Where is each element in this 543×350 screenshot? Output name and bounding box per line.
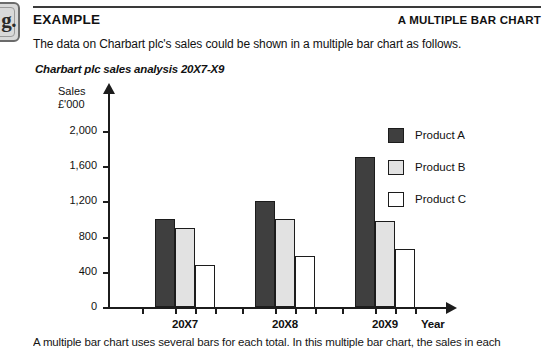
x-tick-mark — [215, 307, 217, 314]
bar-20x8-product-a — [255, 201, 275, 307]
publisher-logo-tab: g. — [0, 2, 20, 42]
x-axis-line — [108, 307, 448, 309]
multiple-bar-chart: Sales £'000 04008001,2001,6002,000 20X72… — [33, 80, 543, 335]
x-tick-mark — [375, 307, 377, 314]
footer-paragraph: A multiple bar chart uses several bars f… — [33, 336, 543, 348]
logo-text: g. — [1, 8, 16, 33]
legend-swatch — [388, 160, 404, 175]
legend-label: Product C — [415, 193, 466, 205]
y-tick-label: 800 — [51, 230, 97, 242]
x-tick-mark — [195, 307, 197, 314]
section-header: EXAMPLE A MULTIPLE BAR CHART — [33, 12, 541, 32]
legend-swatch — [388, 128, 404, 143]
y-axis-title-line1: Sales — [58, 85, 86, 98]
bar-20x8-product-b — [275, 219, 295, 307]
bar-20x9-product-a — [355, 157, 375, 307]
chart-type-heading: A MULTIPLE BAR CHART — [398, 14, 541, 26]
x-tick-mark — [395, 307, 397, 314]
page-content: EXAMPLE A MULTIPLE BAR CHART The data on… — [33, 0, 543, 350]
x-tick-mark — [242, 307, 244, 314]
header-divider — [33, 6, 541, 8]
x-axis-label-20x8: 20X8 — [255, 318, 315, 330]
bar-20x8-product-c — [295, 256, 315, 307]
y-tick-label: 2,000 — [51, 124, 97, 136]
y-axis-title-line2: £'000 — [58, 98, 86, 111]
y-tick-mark — [103, 237, 110, 239]
y-tick-label: 1,600 — [51, 159, 97, 171]
bar-20x7-product-b — [175, 228, 195, 307]
y-tick-label: 1,200 — [51, 194, 97, 206]
bar-20x7-product-c — [195, 265, 215, 307]
y-tick-mark — [103, 131, 110, 133]
bar-20x9-product-c — [395, 249, 415, 307]
y-tick-label: 0 — [51, 300, 97, 312]
y-tick-mark — [103, 166, 110, 168]
legend-swatch — [388, 192, 404, 207]
example-heading: EXAMPLE — [33, 12, 100, 27]
x-axis-label-20x9: 20X9 — [355, 318, 415, 330]
intro-paragraph: The data on Charbart plc's sales could b… — [33, 37, 541, 51]
bar-20x9-product-b — [375, 221, 395, 307]
y-tick-label: 400 — [51, 265, 97, 277]
legend-label: Product A — [415, 129, 465, 141]
x-axis-title: Year — [421, 318, 445, 330]
figure-title: Charbart plc sales analysis 20X7-X9 — [35, 63, 224, 75]
x-axis-label-20x7: 20X7 — [155, 318, 215, 330]
legend-label: Product B — [415, 161, 466, 173]
x-tick-mark — [295, 307, 297, 314]
x-tick-mark — [275, 307, 277, 314]
y-tick-mark — [103, 307, 110, 309]
y-axis-title: Sales £'000 — [58, 85, 86, 111]
x-tick-mark — [315, 307, 317, 314]
x-axis-arrow — [446, 302, 457, 314]
x-tick-mark — [175, 307, 177, 314]
bar-20x7-product-a — [155, 219, 175, 307]
y-tick-mark — [103, 272, 110, 274]
x-tick-mark — [415, 307, 417, 314]
x-tick-mark — [342, 307, 344, 314]
x-tick-mark — [142, 307, 144, 314]
y-tick-mark — [103, 201, 110, 203]
